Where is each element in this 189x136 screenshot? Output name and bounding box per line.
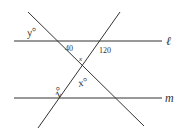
- angle-label-40: 40: [65, 44, 73, 53]
- angle-label-x: x°: [76, 75, 90, 89]
- transversal-1: [28, 12, 144, 126]
- geometry-diagram: ℓ m y° 40 120 x x° z°: [0, 0, 189, 136]
- angle-label-y: y°: [25, 25, 38, 39]
- line-label-m: m: [165, 91, 174, 105]
- line-label-l: ℓ: [166, 34, 171, 48]
- angle-label-120: 120: [99, 46, 111, 55]
- transversal-2: [38, 12, 120, 128]
- angle-label-x-small: x: [78, 55, 83, 63]
- angle-label-z: z°: [50, 84, 66, 99]
